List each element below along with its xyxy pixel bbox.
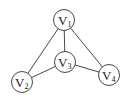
node-v3-subscript: 3 [67, 62, 71, 71]
node-v4: V4 [99, 65, 120, 86]
node-v3: V3 [55, 52, 76, 73]
node-v2: V2 [12, 72, 33, 93]
node-v4-subscript: 4 [111, 75, 115, 84]
node-v2-subscript: 2 [24, 82, 28, 91]
node-v1-subscript: 1 [67, 20, 71, 29]
graph-diagram: V1 V2 V3 V4 [0, 0, 130, 101]
node-v1: V1 [54, 10, 75, 31]
